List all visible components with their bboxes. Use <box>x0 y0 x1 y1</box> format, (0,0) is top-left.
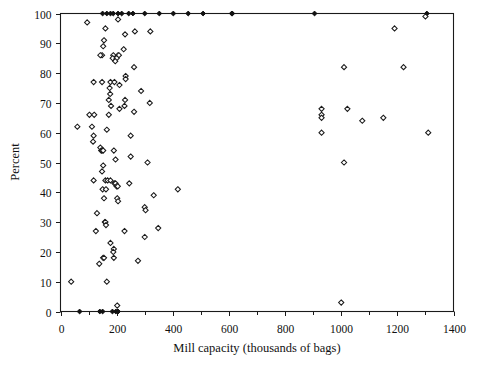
data-point-open <box>107 85 112 90</box>
data-point-open <box>92 112 97 117</box>
x-axis-tick-labels: 0200400600800100012001400 <box>59 323 467 335</box>
data-point-open <box>91 178 96 183</box>
data-point-open <box>106 112 111 117</box>
data-point-filled <box>186 11 191 16</box>
data-point-open <box>128 154 133 159</box>
data-point-open <box>108 91 113 96</box>
y-tick-label: 30 <box>40 217 52 229</box>
chart-page: 0200400600800100012001400 01020304050607… <box>0 0 480 365</box>
data-point-open <box>127 181 132 186</box>
data-point-open <box>75 124 80 129</box>
data-point-open <box>122 32 127 37</box>
data-point-open <box>85 20 90 25</box>
data-point-open <box>101 196 106 201</box>
y-axis-ticks <box>56 15 61 313</box>
data-point-open <box>319 130 324 135</box>
data-point-open <box>175 187 180 192</box>
data-point-open <box>97 261 102 266</box>
x-tick-label: 1400 <box>443 323 466 335</box>
data-point-open <box>106 97 111 102</box>
data-point-open <box>135 258 140 263</box>
y-tick-label: 0 <box>46 307 52 319</box>
data-point-open <box>104 127 109 132</box>
y-tick-label: 10 <box>40 277 52 289</box>
scatter-plot: 0200400600800100012001400 01020304050607… <box>0 0 480 365</box>
data-point-filled <box>119 11 124 16</box>
data-point-open <box>115 303 120 308</box>
data-point-open <box>148 29 153 34</box>
y-tick-label: 90 <box>40 38 52 50</box>
data-point-open <box>122 228 127 233</box>
y-tick-label: 50 <box>40 158 52 170</box>
data-point-open <box>111 255 116 260</box>
data-point-open <box>115 17 120 22</box>
data-point-open <box>108 103 113 108</box>
data-point-open <box>401 65 406 70</box>
x-tick-label: 0 <box>59 323 65 335</box>
data-point-open <box>113 157 118 162</box>
data-point-open <box>121 47 126 52</box>
data-point-filled <box>201 11 206 16</box>
data-point-open <box>128 133 133 138</box>
y-axis-tick-labels: 0102030405060708090100 <box>34 9 52 319</box>
data-point-open <box>101 38 106 43</box>
x-tick-label: 400 <box>165 323 183 335</box>
y-tick-label: 40 <box>40 187 52 199</box>
data-point-filled <box>131 11 136 16</box>
data-point-open <box>108 240 113 245</box>
data-point-open <box>142 234 147 239</box>
data-point-open <box>90 139 95 144</box>
data-point-open <box>392 26 397 31</box>
y-tick-label: 80 <box>40 68 52 80</box>
data-point-layer <box>69 11 431 314</box>
y-tick-label: 60 <box>40 128 52 140</box>
data-point-open <box>69 279 74 284</box>
data-point-open <box>341 160 346 165</box>
data-point-open <box>91 79 96 84</box>
data-point-filled <box>142 11 147 16</box>
data-point-open <box>99 79 104 84</box>
data-point-open <box>131 109 136 114</box>
data-point-filled <box>157 11 162 16</box>
data-point-open <box>99 169 104 174</box>
y-tick-label: 100 <box>34 9 52 21</box>
data-point-open <box>156 225 161 230</box>
data-point-open <box>93 228 98 233</box>
data-point-open <box>341 65 346 70</box>
x-tick-label: 600 <box>221 323 239 335</box>
data-point-open <box>319 106 324 111</box>
x-tick-label: 1000 <box>330 323 353 335</box>
data-point-open <box>381 115 386 120</box>
data-point-open <box>122 103 127 108</box>
x-tick-label: 200 <box>109 323 127 335</box>
data-point-open <box>103 187 108 192</box>
data-point-open <box>132 29 137 34</box>
y-tick-label: 70 <box>40 98 52 110</box>
x-axis-title: Mill capacity (thousands of bags) <box>173 341 340 355</box>
data-point-open <box>89 124 94 129</box>
data-point-open <box>145 160 150 165</box>
data-point-open <box>117 106 122 111</box>
x-tick-label: 1200 <box>386 323 409 335</box>
data-point-open <box>94 211 99 216</box>
data-point-open <box>360 118 365 123</box>
data-point-open <box>103 26 108 31</box>
data-point-open <box>426 130 431 135</box>
data-point-open <box>151 193 156 198</box>
data-point-filled <box>312 11 317 16</box>
data-point-open <box>111 148 116 153</box>
data-point-open <box>131 65 136 70</box>
data-point-filled <box>77 309 82 314</box>
data-point-open <box>112 79 117 84</box>
data-point-open <box>104 279 109 284</box>
data-point-open <box>101 163 106 168</box>
data-point-open <box>345 106 350 111</box>
data-point-open <box>138 88 143 93</box>
data-point-open <box>122 97 127 102</box>
data-point-filled <box>171 11 176 16</box>
data-point-open <box>91 133 96 138</box>
data-point-open <box>147 100 152 105</box>
data-point-open <box>339 300 344 305</box>
y-axis-title: Percent <box>8 143 22 181</box>
y-tick-label: 20 <box>40 247 52 259</box>
